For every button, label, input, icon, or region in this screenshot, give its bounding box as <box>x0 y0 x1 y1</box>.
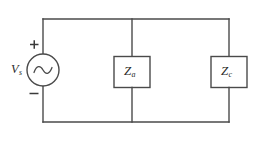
circuit-diagram-canvas: Vs Za Zc <box>0 0 261 146</box>
impedance-a-label-subscript: a <box>131 70 135 79</box>
plus-sign-icon <box>30 40 39 49</box>
source-voltage-label: Vs <box>11 63 22 77</box>
source-voltage-label-base: V <box>11 62 19 76</box>
impedance-c-label: Zc <box>221 64 232 79</box>
impedance-a-label: Za <box>124 64 136 79</box>
source-voltage-label-subscript: s <box>19 68 22 77</box>
impedance-c-label-subscript: c <box>228 70 232 79</box>
